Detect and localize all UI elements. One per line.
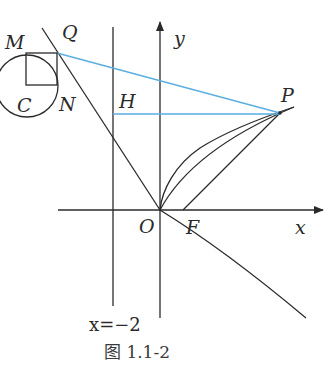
parabola-upper-branch <box>160 107 294 210</box>
label-o: O <box>139 215 155 237</box>
label-n: N <box>58 93 77 115</box>
label-f: F <box>185 216 200 238</box>
figure-caption: 图 1.1-2 <box>104 342 170 362</box>
parabola-diagram: M Q C N H P O F x y x=−2 图 1.1-2 <box>0 0 329 366</box>
segment-qp <box>57 53 280 113</box>
directrix-equation: x=−2 <box>89 314 141 335</box>
parabola-curve <box>160 107 306 318</box>
label-c: C <box>17 94 32 116</box>
label-x-axis: x <box>295 216 306 238</box>
segment-pf <box>183 113 280 210</box>
label-y-axis: y <box>173 27 185 49</box>
label-h: H <box>118 90 136 112</box>
label-p: P <box>280 84 295 106</box>
label-q: Q <box>62 21 78 43</box>
point-p <box>278 111 282 115</box>
label-m: M <box>4 31 25 53</box>
line-qo <box>42 28 160 210</box>
